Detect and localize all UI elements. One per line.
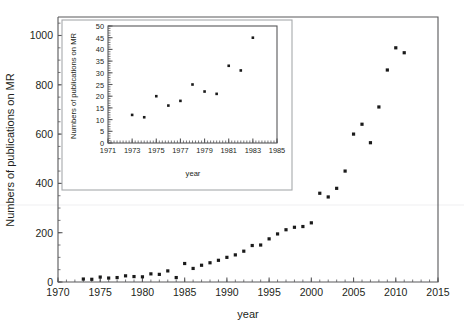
data-point	[200, 264, 203, 267]
y-tick-label: 800	[35, 79, 53, 91]
data-point	[239, 69, 242, 72]
data-point	[284, 228, 287, 231]
data-point	[268, 237, 271, 240]
data-point	[344, 169, 347, 172]
x-tick-label: 1981	[220, 146, 236, 155]
figure-container: 1970197519801985199019952000200520102015…	[0, 0, 464, 325]
x-tick-label: 1975	[89, 286, 113, 298]
data-point	[132, 275, 135, 278]
scatter-plot-figure: 1970197519801985199019952000200520102015…	[0, 0, 464, 325]
data-point	[252, 36, 255, 39]
x-tick-label: 1975	[148, 146, 164, 155]
y-tick-label: 25	[96, 81, 104, 90]
data-point	[116, 276, 119, 279]
inset-axes: 19711973197519771979198119831985 0510152…	[62, 20, 292, 190]
data-point	[225, 256, 228, 259]
y-tick-label: 15	[96, 104, 104, 113]
data-point	[318, 192, 321, 195]
data-point	[227, 64, 230, 67]
y-tick-label: 40	[96, 45, 104, 54]
y-tick-label: 50	[96, 22, 104, 31]
y-tick-label: 45	[96, 34, 104, 43]
y-tick-label: 0	[100, 139, 104, 148]
data-point	[394, 46, 397, 49]
data-point	[251, 244, 254, 247]
y-tick-label: 600	[35, 128, 53, 140]
data-point	[158, 273, 161, 276]
data-point	[107, 276, 110, 279]
data-point	[335, 187, 338, 190]
data-point	[352, 132, 355, 135]
data-point	[155, 95, 158, 98]
y-tick-label: 20	[96, 92, 104, 101]
data-point	[276, 232, 279, 235]
data-point	[259, 243, 262, 246]
x-tick-label: 2005	[342, 286, 366, 298]
data-point	[141, 275, 144, 278]
data-point	[360, 123, 363, 126]
inset-y-axis-label: Numbers of publications on MR	[69, 33, 78, 139]
x-tick-label: 1985	[173, 286, 197, 298]
data-point	[203, 90, 206, 93]
data-point	[217, 259, 220, 262]
x-tick-label: 1979	[196, 146, 212, 155]
x-tick-label: 1983	[245, 146, 261, 155]
y-tick-label: 5	[100, 127, 104, 136]
data-point	[369, 141, 372, 144]
y-tick-label: 10	[96, 116, 104, 125]
x-tick-label: 1985	[269, 146, 285, 155]
data-point	[310, 221, 313, 224]
main-x-axis-label: year	[237, 308, 259, 320]
y-tick-label: 30	[96, 69, 104, 78]
x-tick-label: 1973	[124, 146, 140, 155]
data-point	[242, 250, 245, 253]
data-point	[377, 105, 380, 108]
data-point	[208, 261, 211, 264]
data-point	[167, 104, 170, 107]
data-point	[234, 253, 237, 256]
x-tick-label: 2010	[384, 286, 408, 298]
x-tick-label: 1995	[257, 286, 281, 298]
x-tick-label: 1977	[172, 146, 188, 155]
main-y-axis-label: Numbers of publications on MR	[4, 73, 16, 227]
y-tick-label: 200	[35, 227, 53, 239]
inset-x-axis-label: year	[186, 169, 201, 178]
x-tick-label: 1990	[215, 286, 239, 298]
data-point	[215, 93, 218, 96]
y-tick-label: 35	[96, 57, 104, 66]
data-point	[191, 83, 194, 86]
data-point	[192, 267, 195, 270]
data-point	[90, 278, 93, 281]
x-tick-label: 2015	[426, 286, 450, 298]
x-tick-label: 2000	[300, 286, 324, 298]
x-tick-label: 1980	[131, 286, 155, 298]
data-point	[175, 276, 178, 279]
data-point	[99, 275, 102, 278]
y-tick-label: 0	[47, 276, 53, 288]
data-point	[183, 262, 186, 265]
data-point	[293, 226, 296, 229]
data-point	[143, 116, 146, 119]
y-tick-label: 400	[35, 177, 53, 189]
data-point	[301, 225, 304, 228]
data-point	[386, 68, 389, 71]
data-point	[327, 195, 330, 198]
data-point	[403, 51, 406, 54]
data-point	[149, 272, 152, 275]
data-point	[131, 114, 134, 117]
data-point	[166, 269, 169, 272]
data-point	[124, 274, 127, 277]
y-tick-label: 1000	[30, 29, 54, 41]
data-point	[82, 277, 85, 280]
data-point	[179, 100, 182, 103]
